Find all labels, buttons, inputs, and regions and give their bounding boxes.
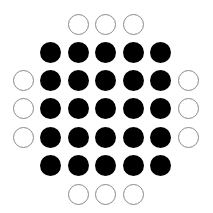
- filled-circle: [95, 98, 116, 119]
- filled-circle: [95, 127, 116, 148]
- filled-circle: [40, 42, 61, 63]
- filled-circle: [150, 127, 171, 148]
- open-circle: [178, 70, 199, 91]
- open-circle: [13, 127, 34, 148]
- filled-circle: [123, 42, 144, 63]
- filled-circle: [40, 155, 61, 176]
- open-circle: [178, 98, 199, 119]
- filled-circle: [68, 98, 89, 119]
- open-circle: [13, 70, 34, 91]
- open-circle: [13, 98, 34, 119]
- filled-circle: [40, 70, 61, 91]
- filled-circle: [95, 42, 116, 63]
- dot-pattern-board: [0, 0, 213, 213]
- open-circle: [123, 184, 144, 205]
- filled-circle: [95, 70, 116, 91]
- open-circle: [68, 184, 89, 205]
- filled-circle: [150, 42, 171, 63]
- filled-circle: [123, 98, 144, 119]
- filled-circle: [95, 155, 116, 176]
- filled-circle: [68, 70, 89, 91]
- filled-circle: [123, 70, 144, 91]
- open-circle: [123, 14, 144, 35]
- open-circle: [68, 14, 89, 35]
- filled-circle: [150, 155, 171, 176]
- open-circle: [95, 14, 116, 35]
- filled-circle: [150, 70, 171, 91]
- open-circle: [178, 127, 199, 148]
- open-circle: [95, 184, 116, 205]
- filled-circle: [150, 98, 171, 119]
- filled-circle: [68, 155, 89, 176]
- filled-circle: [40, 98, 61, 119]
- filled-circle: [123, 155, 144, 176]
- filled-circle: [68, 127, 89, 148]
- filled-circle: [40, 127, 61, 148]
- filled-circle: [123, 127, 144, 148]
- filled-circle: [68, 42, 89, 63]
